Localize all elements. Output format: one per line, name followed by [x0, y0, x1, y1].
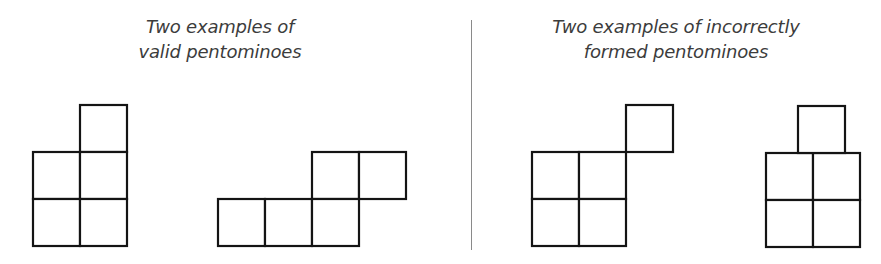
- pentomino-square: [33, 199, 80, 246]
- pentomino-square: [33, 152, 80, 199]
- invalid-pentomino-corner-touch: [532, 105, 673, 246]
- pentomino-square: [218, 199, 265, 246]
- pentomino-square: [766, 153, 813, 200]
- pentomino-square: [80, 199, 127, 246]
- pentomino-square: [312, 199, 359, 246]
- valid-pentomino-1: [33, 105, 127, 246]
- pentomino-square: [579, 152, 626, 199]
- pentomino-square: [813, 200, 860, 247]
- pentomino-square: [359, 152, 406, 199]
- pentomino-square: [813, 153, 860, 200]
- shapes-layer: [33, 105, 860, 247]
- valid-pentomino-2: [218, 152, 406, 246]
- invalid-pentomino-offset: [766, 106, 860, 247]
- pentomino-square: [265, 199, 312, 246]
- pentomino-square: [312, 152, 359, 199]
- pentomino-square: [579, 199, 626, 246]
- pentomino-square: [626, 105, 673, 152]
- pentomino-figure: [0, 0, 881, 264]
- pentomino-square: [766, 200, 813, 247]
- pentomino-square: [798, 106, 845, 153]
- pentomino-square: [532, 199, 579, 246]
- pentomino-square: [80, 105, 127, 152]
- pentomino-square: [532, 152, 579, 199]
- pentomino-square: [80, 152, 127, 199]
